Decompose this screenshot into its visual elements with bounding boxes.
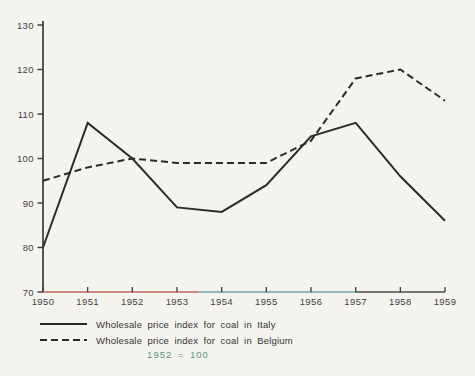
y-tick-label: 80 (23, 242, 34, 253)
legend-row-italy: Wholesale price index for coal in Italy (40, 316, 460, 332)
y-tick-label: 130 (17, 20, 34, 31)
x-tick-label: 1959 (434, 296, 457, 307)
dashed-line-swatch (40, 339, 87, 341)
x-tick-label: 1952 (121, 296, 144, 307)
chart-canvas: 7080901001101201301950195119521953195419… (0, 0, 475, 376)
x-tick-label: 1956 (300, 296, 323, 307)
x-tick-label: 1953 (166, 296, 189, 307)
series-line-italy (43, 123, 445, 248)
legend-row-belgium: Wholesale price index for coal in Belgiu… (40, 332, 460, 348)
x-tick-label: 1954 (210, 296, 233, 307)
y-tick-label: 100 (17, 153, 34, 164)
legend-label-belgium: Wholesale price index for coal in Belgiu… (96, 335, 293, 346)
y-tick-label: 120 (17, 64, 34, 75)
series-line-belgium (43, 70, 445, 181)
x-tick-label: 1957 (344, 296, 367, 307)
x-tick-label: 1955 (255, 296, 278, 307)
index-base-note: 1952 = 100 (118, 349, 238, 360)
x-tick-label: 1951 (76, 296, 99, 307)
legend: Wholesale price index for coal in Italy … (40, 316, 460, 348)
x-tick-label: 1958 (389, 296, 412, 307)
plot-svg: 7080901001101201301950195119521953195419… (0, 0, 475, 312)
y-tick-label: 110 (18, 109, 34, 120)
x-tick-label: 1950 (32, 296, 55, 307)
legend-label-italy: Wholesale price index for coal in Italy (96, 319, 276, 330)
y-tick-label: 90 (23, 198, 34, 209)
solid-line-swatch (40, 323, 87, 325)
